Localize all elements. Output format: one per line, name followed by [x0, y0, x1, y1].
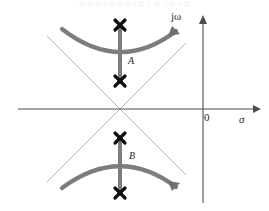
origin-label: 0	[204, 111, 210, 123]
asymptote-line-45	[47, 43, 186, 182]
jomega-axis-label: jω	[171, 10, 181, 22]
arrow-lower-right	[168, 181, 180, 191]
branch-label-b: B	[129, 150, 135, 161]
sigma-axis-group	[18, 105, 261, 113]
branch-label-a: A	[128, 55, 134, 66]
root-locus-figure: 图 例 根轨迹 在 复平面 上 的 分布 示意	[0, 0, 269, 211]
sigma-axis-arrowhead	[253, 105, 261, 113]
jomega-axis-arrowhead	[199, 15, 207, 24]
asymptote-line-135	[47, 36, 186, 175]
sigma-axis-label: σ	[239, 113, 244, 125]
plot-canvas	[0, 0, 269, 211]
arrow-upper-right	[168, 26, 180, 36]
